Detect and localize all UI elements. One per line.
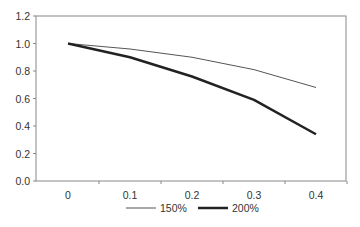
y-tick-label: 1.2: [15, 10, 30, 22]
y-tick-label: 0.8: [15, 65, 30, 77]
y-tick-label: 0.4: [15, 120, 30, 132]
x-tick-label: 0.1: [123, 189, 138, 201]
series-lines: [68, 44, 316, 135]
line-chart: 0.00.20.40.60.81.01.2 00.10.20.30.4 150%…: [0, 0, 360, 227]
y-axis: 0.00.20.40.60.81.01.2: [15, 10, 36, 187]
x-tick-label: 0.4: [309, 189, 324, 201]
y-tick-label: 1.0: [15, 38, 30, 50]
y-tick-label: 0.0: [15, 175, 30, 187]
legend: 150%200%: [126, 202, 259, 214]
legend-label: 150%: [160, 202, 187, 214]
y-tick-label: 0.2: [15, 148, 30, 160]
x-tick-label: 0: [65, 189, 71, 201]
x-axis: 00.10.20.30.4: [65, 181, 347, 201]
y-tick-label: 0.6: [15, 93, 30, 105]
x-tick-label: 0.2: [185, 189, 200, 201]
x-tick-label: 0.3: [247, 189, 262, 201]
series-line: [68, 44, 316, 88]
legend-label: 200%: [232, 202, 259, 214]
plot-area: [36, 16, 346, 181]
